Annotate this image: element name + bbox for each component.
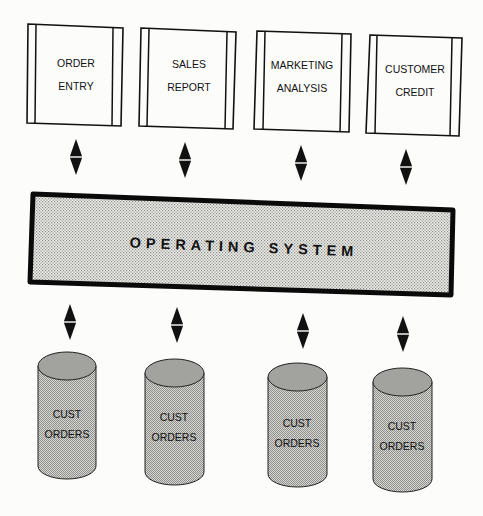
bidirectional-arrow-icon	[295, 145, 307, 181]
bidirectional-arrow-icon	[400, 149, 412, 185]
bidirectional-arrow-icon	[397, 316, 409, 352]
database-label-line1: CUST	[388, 420, 417, 432]
database-label-line2: ORDERS	[152, 431, 197, 443]
app-label-line2: REPORT	[167, 81, 211, 93]
database-label-line1: CUST	[283, 417, 312, 429]
database-label-line2: ORDERS	[275, 437, 320, 449]
database-cylinder: CUST ORDERS	[145, 359, 204, 485]
bidirectional-arrow-icon	[64, 304, 76, 340]
database-label-line1: CUST	[160, 411, 189, 423]
database-label-line1: CUST	[53, 408, 82, 420]
app-box-marketing-analysis: MARKETING ANALYSIS	[254, 31, 351, 132]
bidirectional-arrow-icon	[179, 142, 191, 178]
app-label-line1: ORDER	[57, 57, 95, 69]
database-label-line2: ORDERS	[380, 440, 425, 452]
app-label-line1: CUSTOMER	[385, 63, 445, 75]
app-box-customer-credit: CUSTOMER CREDIT	[366, 35, 462, 136]
app-label-line1: SALES	[172, 58, 206, 70]
bidirectional-arrow-icon	[70, 139, 82, 175]
app-label-line2: ENTRY	[58, 80, 93, 92]
app-label-line1: MARKETING	[271, 59, 333, 71]
app-label-line2: CREDIT	[395, 86, 435, 98]
operating-system-box: OPERATING SYSTEM	[30, 194, 453, 295]
database-cylinder: CUST ORDERS	[373, 368, 432, 492]
bidirectional-arrow-icon	[171, 307, 183, 343]
bidirectional-arrow-icon	[297, 313, 309, 349]
database-label-line2: ORDERS	[45, 428, 90, 440]
database-cylinder: CUST ORDERS	[268, 363, 327, 487]
diagram-canvas: ORDER ENTRY SALES REPORT MARKETING ANALY…	[0, 0, 483, 516]
app-box-order-entry: ORDER ENTRY	[27, 24, 123, 126]
app-label-line2: ANALYSIS	[277, 82, 328, 94]
app-box-sales-report: SALES REPORT	[139, 28, 236, 129]
database-cylinder: CUST ORDERS	[38, 352, 96, 479]
